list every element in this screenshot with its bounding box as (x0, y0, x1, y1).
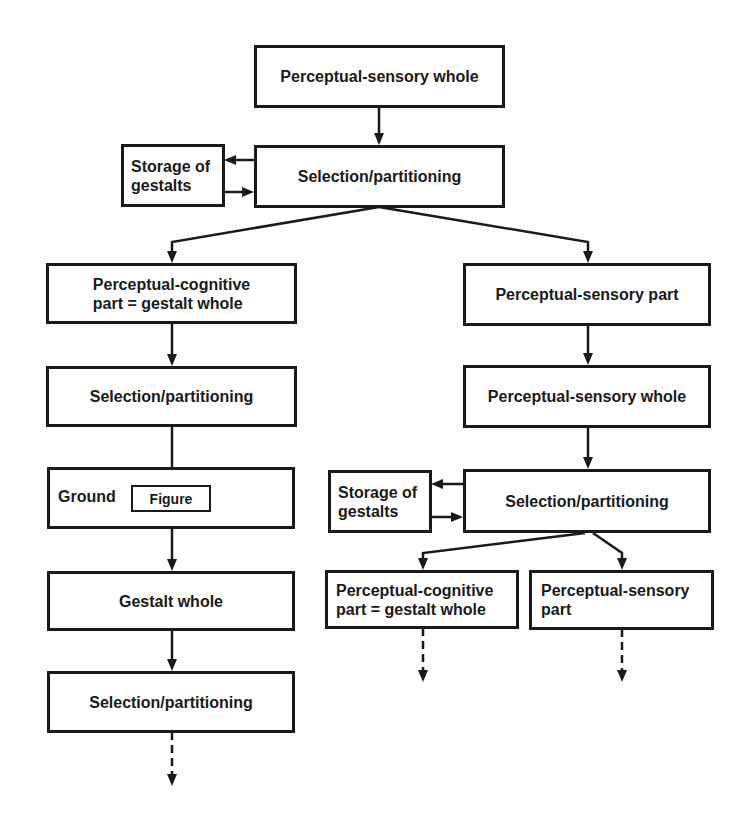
arrowhead (167, 559, 177, 571)
label-line: Perceptual-sensory (541, 582, 690, 599)
node-label: Storage ofgestalts (131, 157, 210, 195)
node-label: Perceptual-sensorypart (541, 581, 690, 619)
node-right-perceptual-cognitive-part: Perceptual-cognitivepart = gestalt whole (325, 570, 519, 629)
node-label: Selection/partitioning (298, 167, 462, 186)
node-label: Perceptual-cognitivepart = gestalt whole (93, 275, 250, 313)
arrowhead (167, 354, 177, 366)
arrowhead (374, 133, 384, 145)
arrowhead (167, 251, 177, 263)
node-right-perceptual-sensory-part-2: Perceptual-sensorypart (529, 570, 714, 630)
node-label: Storage ofgestalts (338, 483, 417, 521)
label-line: Storage of (131, 158, 210, 175)
node-right-selection-partitioning: Selection/partitioning (463, 469, 711, 533)
edge-right-selection-to-sensory-part (593, 533, 622, 560)
node-top-selection-partitioning: Selection/partitioning (254, 145, 505, 208)
node-label: Perceptual-cognitivepart = gestalt whole (336, 581, 493, 619)
arrowhead (583, 251, 593, 263)
arrowhead (224, 155, 236, 165)
label-line: part = gestalt whole (336, 601, 486, 618)
label-line: gestalts (338, 503, 398, 520)
arrowhead (418, 558, 428, 570)
label-line: Perceptual-cognitive (93, 276, 250, 293)
arrowhead (242, 187, 254, 197)
label-line: part (541, 601, 571, 618)
node-left-figure: Figure (131, 485, 211, 512)
node-label: Perceptual-sensory part (495, 285, 678, 304)
node-label: Perceptual-sensory whole (280, 67, 478, 86)
node-label: Selection/partitioning (89, 693, 253, 712)
arrowhead (451, 512, 463, 522)
arrowhead (617, 558, 627, 570)
label-line: Perceptual-cognitive (336, 582, 493, 599)
arrowhead (583, 457, 593, 469)
arrowhead (167, 774, 177, 786)
arrowhead (431, 479, 443, 489)
node-left-gestalt-whole: Gestalt whole (47, 571, 295, 631)
arrowhead (617, 670, 627, 682)
arrowhead (418, 670, 428, 682)
node-label: Figure (150, 491, 193, 507)
arrowhead (167, 659, 177, 671)
node-label: Selection/partitioning (505, 492, 669, 511)
arrowhead (583, 353, 593, 365)
edge-top-selection-to-right-part (379, 207, 588, 254)
node-right-perceptual-sensory-whole: Perceptual-sensory whole (463, 365, 711, 428)
node-label: Selection/partitioning (90, 387, 254, 406)
label-line: gestalts (131, 177, 191, 194)
node-label: Gestalt whole (119, 592, 223, 611)
edge-right-selection-to-cog-part (423, 533, 585, 560)
node-top-storage-of-gestalts: Storage ofgestalts (121, 144, 225, 207)
node-label: Perceptual-sensory whole (488, 387, 686, 406)
node-top-perceptual-sensory-whole: Perceptual-sensory whole (254, 45, 505, 108)
edge-top-selection-to-left-cog (172, 207, 379, 254)
label-line: Storage of (338, 484, 417, 501)
node-right-storage-of-gestalts: Storage ofgestalts (328, 470, 432, 533)
label-line: part = gestalt whole (93, 295, 243, 312)
node-left-selection-partitioning-2: Selection/partitioning (47, 671, 295, 733)
node-left-selection-partitioning: Selection/partitioning (46, 366, 297, 427)
node-left-perceptual-cognitive-part: Perceptual-cognitivepart = gestalt whole (46, 263, 297, 324)
ground-label: Ground (58, 488, 116, 506)
node-right-perceptual-sensory-part: Perceptual-sensory part (463, 263, 711, 326)
